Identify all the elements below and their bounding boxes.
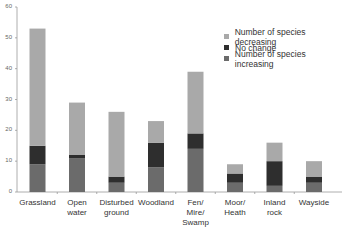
bar-segment [69,155,85,158]
bar-segment [188,72,204,134]
bar-segment [227,183,243,192]
legend-swatch [224,56,229,61]
bar-segment [227,164,243,173]
bar-segment [188,149,204,192]
y-tick-label: 30 [0,96,12,102]
bar-segment [109,112,125,177]
bar-segment [148,167,164,192]
y-tick-label: 0 [0,188,12,194]
bar-segment [306,183,322,192]
legend-swatch [224,45,229,50]
bar-segment [267,143,283,162]
bar-segment [188,133,204,148]
bar-segment [30,146,46,165]
bar-segment [109,183,125,192]
bar-segment [306,177,322,183]
stacked-bar-chart: Number of species decreasing No change N… [0,0,342,230]
legend: Number of species decreasing No change N… [224,31,342,64]
bar-segment [30,164,46,192]
y-tick-label: 10 [0,157,12,163]
legend-swatch [224,34,229,39]
bar-segment [148,121,164,143]
bar-segment [109,177,125,183]
bar-segment [267,161,283,186]
bar-segment [30,29,46,146]
bar-segment [267,186,283,192]
legend-item-decreasing: Number of species decreasing [224,31,342,42]
bar-segment [69,158,85,192]
y-tick-label: 20 [0,126,12,132]
legend-item-increasing: Number of species increasing [224,53,342,64]
x-tick-label: Wayside [289,198,339,208]
y-tick-label: 50 [0,34,12,40]
bar-segment [69,103,85,155]
bar-segment [148,143,164,168]
y-tick-label: 40 [0,65,12,71]
bar-segment [306,161,322,176]
bar-segment [227,174,243,183]
y-tick-label: 60 [0,3,12,9]
